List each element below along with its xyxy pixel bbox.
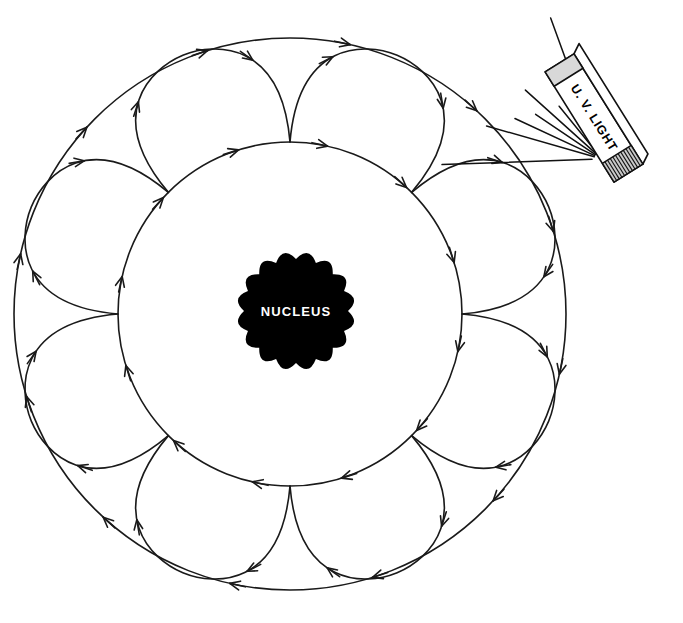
atom-uv-diagram: NUCLEUS U. V. LIGHT <box>0 0 683 623</box>
diagram-canvas: NUCLEUS U. V. LIGHT <box>0 0 683 623</box>
nucleus: NUCLEUS <box>238 253 354 369</box>
nucleus-label: NUCLEUS <box>261 304 332 319</box>
